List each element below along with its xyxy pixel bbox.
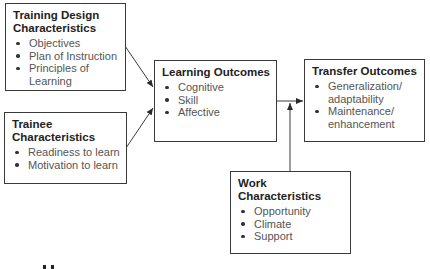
list-item: Readiness to learn xyxy=(12,146,120,159)
arrow-training-to-learning xyxy=(125,46,153,87)
trainee-list: Readiness to learn Motivation to learn xyxy=(12,146,120,171)
cropped-caption-fragment xyxy=(40,265,58,269)
work-characteristics-list: Opportunity Climate Support xyxy=(238,205,344,243)
transfer-outcomes-box: Transfer Outcomes Generalization/ adapta… xyxy=(304,59,425,142)
list-item: Principles of Learning xyxy=(13,62,119,87)
list-item: Plan of Instruction xyxy=(13,50,119,63)
arrow-trainee-to-learning xyxy=(126,108,153,148)
list-item: Support xyxy=(238,230,344,243)
learning-outcomes-list: Cognitive Skill Affective xyxy=(162,81,270,119)
list-item: Affective xyxy=(162,106,270,119)
list-item: Objectives xyxy=(13,37,119,50)
learning-outcomes-title: Learning Outcomes xyxy=(162,66,270,79)
training-design-list: Objectives Plan of Instruction Principle… xyxy=(13,37,119,87)
list-item: Opportunity xyxy=(238,205,344,218)
list-item: Motivation to learn xyxy=(12,159,120,172)
trainee-title: Trainee Characteristics xyxy=(12,118,102,144)
list-item: Generalization/ adaptability xyxy=(312,80,407,105)
list-item: Climate xyxy=(238,218,344,231)
list-item: Maintenance/ enhancement xyxy=(312,105,407,130)
list-item: Skill xyxy=(162,94,270,107)
training-design-box: Training Design Characteristics Objectiv… xyxy=(5,3,126,91)
learning-outcomes-box: Learning Outcomes Cognitive Skill Affect… xyxy=(154,60,277,142)
transfer-outcomes-title: Transfer Outcomes xyxy=(312,65,418,78)
training-design-title: Training Design Characteristics xyxy=(13,9,119,35)
transfer-outcomes-list: Generalization/ adaptability Maintenance… xyxy=(312,80,407,130)
list-item: Cognitive xyxy=(162,81,270,94)
work-characteristics-box: Work Characteristics Opportunity Climate… xyxy=(230,171,351,254)
work-characteristics-title: Work Characteristics xyxy=(238,177,328,203)
trainee-box: Trainee Characteristics Readiness to lea… xyxy=(4,112,127,184)
